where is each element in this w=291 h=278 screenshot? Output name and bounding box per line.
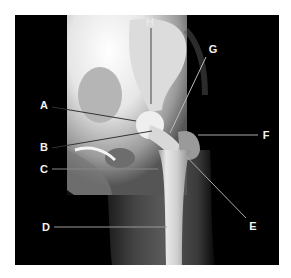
leader-line-e [178, 148, 246, 218]
label-e: E [249, 221, 256, 232]
leader-line-g [170, 57, 206, 133]
label-h: H [146, 17, 154, 28]
leader-line-a [52, 107, 136, 121]
label-b: B [40, 142, 48, 153]
label-f: F [263, 130, 270, 141]
label-g: G [209, 44, 218, 55]
xray-image: A B C D E F G H [15, 15, 279, 265]
label-d: D [42, 222, 50, 233]
leader-line-b [52, 131, 152, 148]
label-c: C [40, 164, 48, 175]
leader-lines [15, 15, 279, 265]
label-a: A [40, 100, 48, 111]
